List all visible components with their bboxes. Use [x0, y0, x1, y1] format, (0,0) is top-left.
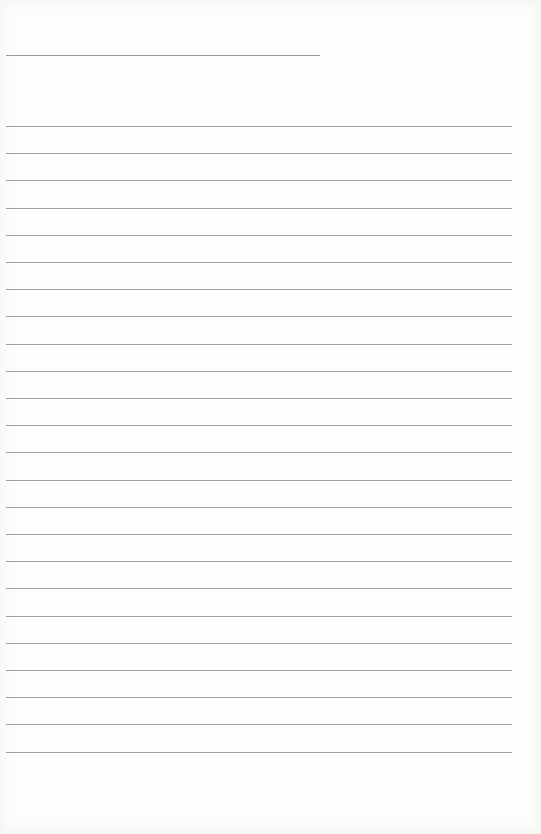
- ruled-line: [6, 262, 512, 263]
- ruled-line: [6, 235, 512, 236]
- ruled-line: [6, 153, 512, 154]
- ruled-line: [6, 208, 512, 209]
- ruled-line: [6, 752, 512, 753]
- ruled-line: [6, 616, 512, 617]
- ruled-line: [6, 180, 512, 181]
- ruled-line: [6, 643, 512, 644]
- ruled-line: [6, 425, 512, 426]
- ruled-line: [6, 452, 512, 453]
- lined-paper: [0, 0, 541, 834]
- ruled-line: [6, 371, 512, 372]
- ruled-line: [6, 126, 512, 127]
- ruled-line: [6, 480, 512, 481]
- ruled-line: [6, 697, 512, 698]
- ruled-line: [6, 670, 512, 671]
- title-line: [6, 55, 320, 56]
- ruled-line: [6, 316, 512, 317]
- ruled-line: [6, 344, 512, 345]
- ruled-line: [6, 398, 512, 399]
- ruled-line: [6, 289, 512, 290]
- ruled-line: [6, 561, 512, 562]
- ruled-line: [6, 507, 512, 508]
- ruled-line: [6, 588, 512, 589]
- ruled-line: [6, 724, 512, 725]
- ruled-line: [6, 534, 512, 535]
